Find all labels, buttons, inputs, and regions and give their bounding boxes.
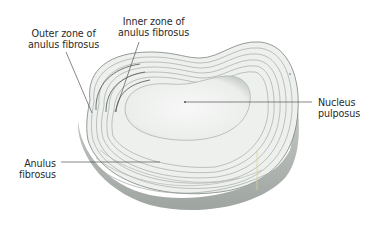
nucleus-pointer-dot (184, 101, 186, 103)
label-outer-zone-line2: anulus fibrosus (28, 39, 99, 50)
label-inner-zone-line2: anulus fibrosus (118, 27, 189, 38)
label-outer-zone-line1: Outer zone of (28, 28, 99, 39)
label-inner-zone-line1: Inner zone of (118, 16, 189, 27)
label-anulus-line2: fibrosus (14, 169, 56, 180)
label-nucleus-line1: Nucleus (318, 97, 360, 108)
label-anulus-line1: Anulus (14, 158, 56, 169)
label-nucleus-pulposus: Nucleus pulposus (318, 97, 360, 119)
label-anulus-fibrosus: Anulus fibrosus (14, 158, 56, 180)
label-inner-zone: Inner zone of anulus fibrosus (118, 16, 189, 38)
disc-diagram: Outer zone of anulus fibrosus Inner zone… (0, 0, 374, 229)
speck (289, 73, 291, 75)
label-nucleus-line2: pulposus (318, 108, 360, 119)
label-outer-zone: Outer zone of anulus fibrosus (28, 28, 99, 50)
leader-outer-zone (66, 52, 92, 113)
